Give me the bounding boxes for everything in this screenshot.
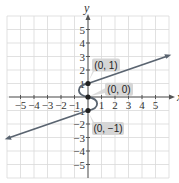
y-tick-label: −5: [73, 159, 85, 171]
y-tick-label: 4: [80, 37, 86, 49]
x-tick-label: −5: [15, 99, 27, 111]
x-tick-label: 4: [139, 99, 145, 111]
data-point: [85, 81, 90, 86]
x-tick-label: −4: [28, 99, 40, 111]
lower-arrow-icon: [5, 135, 12, 140]
y-tick-label: −3: [73, 132, 85, 144]
y-tick-label: 2: [80, 64, 86, 76]
x-tick-label: 3: [126, 99, 132, 111]
graph: xy−5−4−3−2−11234554321−1−2−3−4−5(0, 1)(0…: [0, 0, 179, 183]
x-axis-arrow-icon: [169, 95, 175, 100]
x-tick-label: 5: [153, 99, 159, 111]
y-tick-label: 3: [80, 51, 86, 63]
point-label: (0, 1): [94, 60, 117, 71]
y-tick-label: −2: [73, 118, 85, 130]
x-tick-label: −2: [55, 99, 67, 111]
x-axis-label: x: [176, 90, 179, 104]
x-tick-label: −3: [42, 99, 54, 111]
data-point: [85, 94, 90, 99]
data-point: [85, 108, 90, 113]
x-tick-label: 1: [99, 99, 105, 111]
y-axis-label: y: [83, 1, 90, 15]
upper-arrow-icon: [164, 54, 171, 59]
x-tick-label: 2: [112, 99, 118, 111]
point-label: (0, −1): [93, 123, 122, 134]
point-label: (0, 0): [107, 84, 130, 95]
y-tick-label: 5: [80, 24, 86, 36]
y-tick-label: −4: [73, 145, 85, 157]
